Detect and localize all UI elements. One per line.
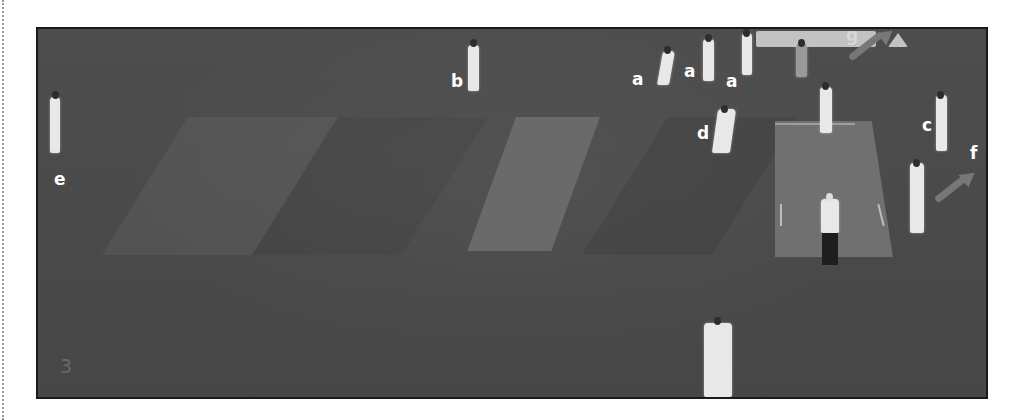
batsman-striker bbox=[820, 87, 832, 133]
label-g: g bbox=[846, 27, 858, 44]
player-head bbox=[52, 91, 59, 99]
label-a3: a bbox=[726, 73, 737, 90]
label-d: d bbox=[697, 125, 709, 142]
player-head bbox=[705, 34, 712, 42]
fielder-b bbox=[468, 45, 479, 91]
cricket-field-photo: a a a b c d e f g 3 bbox=[36, 27, 988, 399]
fielder-c bbox=[936, 95, 947, 151]
player-head bbox=[822, 82, 829, 90]
wicketkeeper bbox=[796, 43, 807, 77]
player-head bbox=[913, 159, 920, 167]
player-head bbox=[721, 105, 728, 113]
player-head bbox=[664, 46, 671, 54]
umpire-trousers bbox=[822, 233, 838, 265]
fielder-e bbox=[50, 97, 60, 153]
dotted-margin-line bbox=[2, 0, 4, 420]
label-a2: a bbox=[684, 63, 695, 80]
umpire bbox=[821, 199, 839, 233]
label-b: b bbox=[451, 73, 463, 90]
crease-line bbox=[775, 123, 855, 125]
fielder-a2 bbox=[703, 39, 714, 81]
panel-number: 3 bbox=[60, 355, 72, 377]
player-head bbox=[743, 29, 750, 37]
fielder-a3 bbox=[742, 33, 752, 75]
player-head bbox=[714, 317, 721, 325]
player-head bbox=[937, 91, 944, 99]
batsman-non-striker bbox=[910, 163, 924, 233]
player-head bbox=[798, 39, 805, 47]
crease-line bbox=[780, 204, 782, 226]
player-head bbox=[470, 39, 477, 47]
label-e: e bbox=[54, 171, 66, 188]
bowler bbox=[704, 323, 732, 397]
label-f: f bbox=[970, 145, 977, 162]
player-head bbox=[826, 193, 833, 201]
label-a1: a bbox=[632, 71, 643, 88]
label-c: c bbox=[922, 117, 932, 134]
